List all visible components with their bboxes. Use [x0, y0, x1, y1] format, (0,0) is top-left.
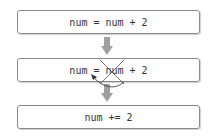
- down-arrow-icon: [101, 37, 113, 55]
- step-3-box: num += 2: [17, 105, 200, 129]
- step-2-code: num = num + 2: [69, 65, 147, 76]
- step-1-box: num = num + 2: [17, 10, 200, 34]
- down-arrow-icon: [101, 84, 113, 102]
- step-3-code: num += 2: [84, 112, 132, 123]
- step-2-box: num = num + 2: [17, 58, 200, 82]
- step-1-code: num = num + 2: [69, 17, 147, 28]
